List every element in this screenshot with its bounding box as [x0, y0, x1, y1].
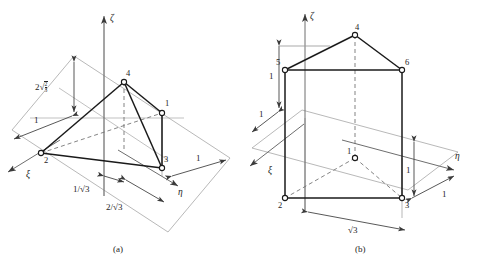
- node-label-4-a: 4: [126, 69, 130, 78]
- panel-b-drawing: [242, 0, 484, 271]
- axis-eta-b: [342, 140, 454, 170]
- dimension-two-over-root3-a: 2/√3: [106, 203, 122, 212]
- dimension-right-diagonal-one-b: 1: [442, 190, 447, 199]
- node-label-2-b: 2: [278, 201, 282, 210]
- node-6-marker-b: [399, 67, 404, 72]
- construction-lines-a: [30, 88, 184, 160]
- axis-label-eta-b: η: [455, 152, 460, 162]
- axis-label-zeta-b: ζ: [310, 12, 314, 22]
- node-1-marker-b: [352, 155, 357, 160]
- hidden-edges-a: [41, 82, 162, 153]
- node-2-marker-a: [38, 150, 43, 155]
- node-3-marker-a: [159, 165, 164, 170]
- prism-edges-b: [285, 35, 402, 198]
- node-4-marker-a: [121, 79, 126, 84]
- node-label-3-a: 3: [164, 155, 168, 164]
- radical-content-a: 23: [44, 81, 49, 95]
- radical-2-over-3-a: √23: [40, 80, 49, 94]
- node-label-1-a: 1: [165, 99, 169, 108]
- node-3-marker-b: [399, 195, 404, 200]
- hidden-edges-b: [285, 35, 402, 198]
- nodes-a: [38, 79, 164, 170]
- axis-label-xi-b: ξ: [268, 166, 272, 176]
- dimension-lower-left-one-b: 1: [259, 110, 264, 119]
- fraction-denominator-a: 3: [45, 87, 48, 94]
- dimension-upper-left-one-b: 1: [269, 72, 274, 81]
- node-5-marker-b: [282, 67, 287, 72]
- node-1-marker-a: [159, 110, 164, 115]
- dim-text-two-over-root3: 2/√3: [106, 202, 122, 212]
- node-4-marker-b: [352, 32, 357, 37]
- panel-a-tetrahedron: ζ ξ η 4 1 2 3 2√23 1 1 1/√3 2/√3 (a): [0, 0, 242, 271]
- axis-label-xi-a: ξ: [26, 170, 30, 180]
- dimension-one-over-root3-a: 1/√3: [73, 185, 89, 194]
- dim-text-one-over-root3: 1/√3: [73, 184, 89, 194]
- dimension-left-one-a: 1: [34, 116, 39, 125]
- node-label-3-b: 3: [405, 201, 409, 210]
- projection-lines-a: [104, 18, 162, 196]
- dimension-base-root3-b: √3: [348, 226, 357, 235]
- node-2-marker-b: [282, 195, 287, 200]
- node-label-1-b: 1: [347, 147, 351, 156]
- node-label-5-b: 5: [276, 58, 280, 67]
- figure-root: ζ ξ η 4 1 2 3 2√23 1 1 1/√3 2/√3 (a): [0, 0, 484, 271]
- dimension-arrows-b: [252, 46, 454, 230]
- caption-b: (b): [355, 245, 366, 254]
- axis-label-zeta-a: ζ: [110, 14, 114, 24]
- tetrahedron-edges-a: [41, 82, 162, 168]
- panel-a-drawing: [0, 0, 242, 271]
- axis-label-eta-a: η: [178, 188, 183, 198]
- panel-b-prism: ζ ξ η 4 5 6 1 2 3 1 1 1 1 √3 (b): [242, 0, 484, 271]
- caption-a: (a): [113, 245, 123, 254]
- node-label-4-b: 4: [355, 23, 359, 32]
- node-label-2-a: 2: [44, 156, 48, 165]
- dimension-right-vertical-one-b: 1: [406, 166, 411, 175]
- dimension-right-one-a: 1: [196, 154, 201, 163]
- node-label-6-b: 6: [405, 58, 409, 67]
- dimension-height-a: 2√23: [35, 80, 48, 94]
